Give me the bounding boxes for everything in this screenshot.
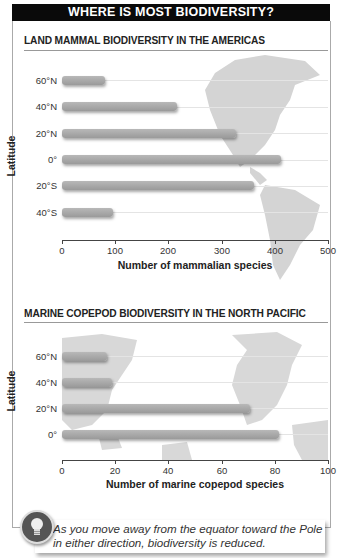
chart1-ylabel: Latitude [5, 136, 17, 177]
bar-0 [62, 155, 281, 164]
chart1-xlabel: Number of mammalian species [62, 259, 328, 271]
xtick: 100 [100, 245, 130, 256]
chart2-ylabel: Latitude [5, 371, 17, 412]
ytick: 0° [17, 429, 57, 440]
bar-40n [62, 102, 177, 111]
bar-40s [62, 208, 113, 217]
xtick: 60 [207, 465, 237, 476]
xtick: 500 [313, 245, 342, 256]
callout-text: As you move away from the equator toward… [53, 522, 328, 550]
xtick: 0 [47, 465, 77, 476]
ytick: 20°N [17, 128, 57, 139]
ytick: 0° [17, 154, 57, 165]
bar-40n [62, 378, 112, 387]
xtick: 40 [153, 465, 183, 476]
ytick: 40°N [17, 377, 57, 388]
bar-20n [62, 129, 236, 138]
callout-box: As you move away from the equator toward… [35, 520, 325, 553]
bar-60n [62, 352, 107, 361]
xtick: 300 [207, 245, 237, 256]
bar-60n [62, 76, 105, 85]
ytick: 40°N [17, 101, 57, 112]
xtick: 0 [47, 245, 77, 256]
ytick: 20°N [17, 403, 57, 414]
xtick: 400 [260, 245, 290, 256]
chart1-title: LAND MAMMAL BIODIVERSITY IN THE AMERICAS [24, 35, 265, 46]
chart2-title-rule [24, 322, 328, 323]
bar-20s [62, 181, 254, 190]
ytick: 40°S [17, 207, 57, 218]
ytick: 60°N [17, 351, 57, 362]
ytick: 20°S [17, 180, 57, 191]
chart1-title-rule [24, 50, 328, 51]
chart1-x-axis [62, 240, 328, 241]
chart1-plot-area [62, 55, 328, 235]
chart2-plot-area [62, 330, 328, 460]
xtick: 20 [100, 465, 130, 476]
ytick: 60°N [17, 75, 57, 86]
xtick: 80 [260, 465, 290, 476]
xtick: 100 [313, 465, 342, 476]
xtick: 200 [153, 245, 183, 256]
chart2-x-axis [62, 460, 328, 461]
chart2-title: MARINE COPEPOD BIODIVERSITY IN THE NORTH… [24, 308, 306, 319]
page-title: WHERE IS MOST BIODIVERSITY? [12, 4, 330, 21]
lightbulb-icon [20, 510, 54, 544]
bar-20n [62, 404, 250, 413]
chart2-xlabel: Number of marine copepod species [62, 478, 328, 490]
bar-0 [62, 430, 279, 439]
